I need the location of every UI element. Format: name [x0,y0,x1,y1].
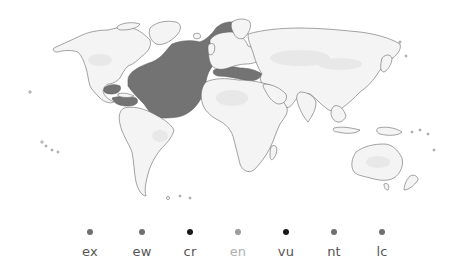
south-america [119,107,174,196]
japan [381,55,392,72]
legend-dot-ew [139,229,145,235]
legend-label-en: en [213,244,263,259]
legend-label-cr: cr [165,244,215,259]
legend-item-lc[interactable]: lc [357,222,407,259]
legend-label-nt: nt [309,244,359,259]
greenland [149,21,180,44]
legend-item-ew[interactable]: ew [117,222,167,259]
legend-item-ex[interactable]: ex [65,222,115,259]
range-gulf-of-mexico [103,85,120,94]
world-map [0,0,465,215]
new-guinea [377,127,402,135]
legend-item-cr[interactable]: cr [165,222,215,259]
conservation-status-legend: ex ew cr en vu nt lc [60,222,420,262]
legend-label-ex: ex [65,244,115,259]
madagascar [270,145,277,159]
legend-item-en[interactable]: en [213,222,263,259]
legend-dot-en [235,229,241,235]
tasmania [384,183,389,190]
legend-dot-ex [87,229,93,235]
legend-label-ew: ew [117,244,167,259]
arctic-archipelago [117,23,140,30]
world-map-svg [0,0,465,215]
legend-item-nt[interactable]: nt [309,222,359,259]
legend-item-vu[interactable]: vu [261,222,311,259]
legend-label-lc: lc [357,244,407,259]
legend-dot-nt [331,229,337,235]
new-zealand [404,175,418,190]
legend-dot-lc [379,229,385,235]
range-caribbean [112,97,138,107]
legend-dot-cr [187,229,193,235]
legend-label-vu: vu [261,244,311,259]
land [53,19,418,196]
legend-dot-vu [283,229,289,235]
cuba [118,93,134,97]
indonesia [333,127,360,133]
southeast-asia [331,106,346,122]
iceland [193,33,200,39]
